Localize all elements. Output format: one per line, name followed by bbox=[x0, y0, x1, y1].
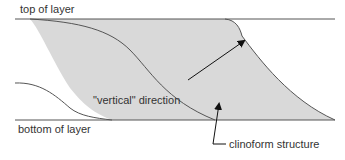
bottom-of-layer-label: bottom of layer bbox=[18, 124, 91, 135]
clinoform-structure-label: clinoform structure bbox=[229, 139, 319, 150]
diagram-canvas bbox=[0, 0, 345, 160]
clinoform-body bbox=[30, 19, 335, 120]
clinoform-diagram: top of layer bottom of layer "vertical" … bbox=[0, 0, 345, 160]
top-of-layer-label: top of layer bbox=[20, 4, 74, 15]
vertical-direction-label: "vertical" direction bbox=[93, 95, 180, 106]
